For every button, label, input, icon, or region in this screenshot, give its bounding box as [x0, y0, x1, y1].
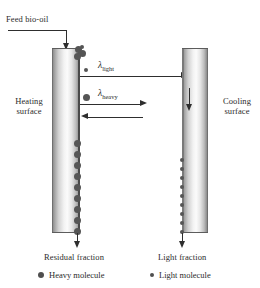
feed-pipe-horizontal — [8, 30, 66, 31]
light-molecule-on-wall — [180, 212, 184, 216]
light-molecule-on-wall — [180, 203, 184, 207]
feed-bio-oil-label: Feed bio-oil — [6, 14, 49, 24]
lambda-light-path-line — [80, 76, 183, 77]
cooling-tube — [182, 48, 208, 233]
lambda-heavy-subscript: heavy — [102, 93, 118, 100]
heavy-molecule-on-wall — [74, 162, 81, 169]
heavy-return-arrow — [81, 113, 88, 119]
light-molecule-on-wall — [180, 194, 184, 198]
lambda-heavy-path-arrow — [140, 100, 147, 106]
lambda-light-label: λlight — [98, 60, 114, 72]
cooling-tube-bottom-cap — [182, 232, 208, 233]
lambda-heavy-path-line — [80, 104, 142, 105]
heavy-molecule-marker — [83, 94, 90, 101]
light-molecule-on-wall — [180, 158, 184, 162]
lambda-heavy-label: λheavy — [98, 88, 118, 100]
legend-heavy-molecule-label: Heavy molecule — [49, 270, 104, 280]
lambda-light-subscript: light — [102, 65, 114, 72]
light-molecule-on-wall — [180, 221, 184, 225]
heating-surface-label: Heating surface — [6, 96, 52, 116]
light-fraction-outlet-arrow — [179, 241, 185, 248]
legend-light-molecule-label: Light molecule — [159, 270, 211, 280]
residual-fraction-label: Residual fraction — [44, 252, 104, 262]
residual-outlet-arrow — [74, 241, 80, 248]
heavy-molecule-on-wall — [74, 217, 81, 224]
light-molecule-marker — [84, 68, 88, 72]
legend-heavy-molecule: Heavy molecule — [38, 270, 104, 280]
cooling-surface-label: Cooling surface — [214, 96, 260, 116]
light-molecule-on-wall — [180, 167, 184, 171]
feed-molecule — [80, 45, 84, 49]
heavy-molecule-on-wall — [74, 151, 81, 158]
heavy-molecule-dot-icon — [38, 272, 44, 278]
cooling-tube-top-cap — [182, 48, 208, 49]
light-fraction-label: Light fraction — [158, 252, 206, 262]
heavy-return-line — [88, 117, 143, 118]
heavy-molecule-on-wall — [74, 140, 81, 147]
heavy-molecule-on-wall — [74, 184, 81, 191]
feed-molecule — [74, 53, 81, 60]
cooling-downflow-arrow — [186, 104, 192, 111]
light-molecule-on-wall — [180, 176, 184, 180]
legend-light-molecule: Light molecule — [150, 270, 211, 280]
figure-canvas: Feed bio-oil Heating surface λlight λhea… — [0, 0, 260, 288]
cooling-tube-body — [182, 48, 208, 233]
light-molecule-on-wall — [180, 185, 184, 189]
heavy-molecule-on-wall — [74, 206, 81, 213]
heavy-molecule-on-wall — [74, 173, 81, 180]
heavy-molecule-on-wall — [74, 195, 81, 202]
light-molecule-dot-icon — [150, 273, 154, 277]
